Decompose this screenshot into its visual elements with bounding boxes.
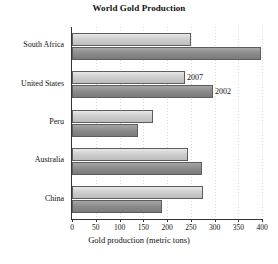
x-tick-mark bbox=[167, 219, 168, 222]
x-tick-mark bbox=[96, 219, 97, 222]
x-tick-mark bbox=[215, 219, 216, 222]
x-axis-label: Gold production (metric tons) bbox=[0, 235, 278, 245]
gridline bbox=[262, 27, 263, 219]
bar-2002 bbox=[72, 47, 261, 60]
bar-2002 bbox=[72, 200, 162, 213]
x-tick-label: 400 bbox=[247, 223, 277, 232]
category-label: Peru bbox=[49, 117, 64, 126]
x-tick-mark bbox=[238, 219, 239, 222]
bar-2002 bbox=[72, 162, 202, 175]
x-tick-mark bbox=[120, 219, 121, 222]
x-tick-mark bbox=[191, 219, 192, 222]
chart-container: World Gold Production 050100150200250300… bbox=[0, 0, 278, 264]
bar-2002 bbox=[72, 85, 213, 98]
bar-2007 bbox=[72, 110, 153, 123]
series-annotation-2007: 2007 bbox=[187, 73, 203, 82]
category-label: Australia bbox=[35, 155, 64, 164]
x-tick-mark bbox=[143, 219, 144, 222]
category-label: South Africa bbox=[23, 40, 64, 49]
chart-title: World Gold Production bbox=[0, 3, 278, 13]
bar-2007 bbox=[72, 148, 188, 161]
x-tick-mark bbox=[262, 219, 263, 222]
bar-2007 bbox=[72, 186, 203, 199]
bar-2002 bbox=[72, 124, 138, 137]
bar-2007 bbox=[72, 33, 191, 46]
bar-2007 bbox=[72, 71, 185, 84]
series-annotation-2002: 2002 bbox=[215, 87, 231, 96]
category-label: China bbox=[45, 194, 64, 203]
category-label: United States bbox=[21, 79, 64, 88]
x-tick-mark bbox=[72, 219, 73, 222]
